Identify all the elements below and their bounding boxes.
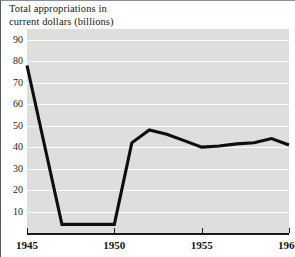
- chart-title: Total appropriations in current dollars …: [9, 3, 209, 28]
- plot-area: [27, 29, 289, 233]
- chart-title-line-2: current dollars (billions): [9, 16, 209, 29]
- y-tick-label-80: 80: [1, 56, 23, 66]
- x-tick-label-1955: 1955: [179, 239, 225, 251]
- y-tick-label-40: 40: [1, 142, 23, 152]
- x-tick-label-1945: 1945: [4, 239, 50, 251]
- y-tick-label-50: 50: [1, 121, 23, 131]
- y-tick-label-90: 90: [1, 35, 23, 45]
- x-tick-mark-1945: [27, 228, 28, 233]
- x-tick-label-1960: 1960: [266, 239, 295, 251]
- data-series-total-appropriations: [27, 29, 289, 233]
- chart-title-line-1: Total appropriations in: [9, 3, 209, 16]
- y-tick-label-60: 60: [1, 99, 23, 109]
- x-tick-mark-1955: [202, 228, 203, 233]
- x-axis-line: [27, 233, 289, 235]
- data-line: [27, 66, 289, 225]
- y-tick-label-70: 70: [1, 78, 23, 88]
- y-tick-label-30: 30: [1, 164, 23, 174]
- x-tick-mark-1960: [289, 228, 290, 233]
- x-tick-label-1950: 1950: [91, 239, 137, 251]
- chart-figure: Total appropriations in current dollars …: [0, 0, 295, 257]
- x-tick-mark-1950: [114, 228, 115, 233]
- y-tick-label-20: 20: [1, 185, 23, 195]
- y-tick-label-10: 10: [1, 207, 23, 217]
